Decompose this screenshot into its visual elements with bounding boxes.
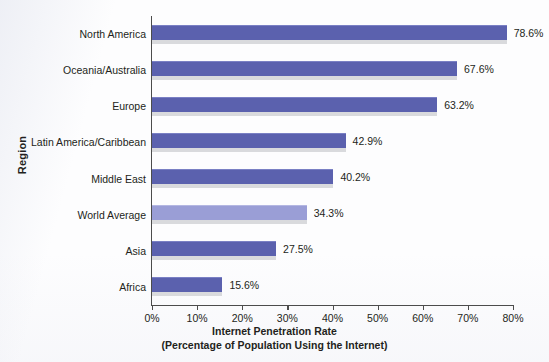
bar — [152, 277, 222, 297]
bar-value-label: 78.6% — [507, 27, 544, 39]
category-label: Middle East — [91, 173, 146, 185]
x-axis-tick-label: 80% — [502, 312, 523, 324]
bar-value-label: 40.2% — [333, 171, 370, 183]
bar-fill — [152, 169, 333, 185]
bar-row: North America78.6% — [152, 16, 513, 52]
bar-fill — [152, 25, 507, 41]
bar — [152, 133, 346, 153]
bar-row: Oceania/Australia67.6% — [152, 52, 513, 88]
category-label: Europe — [112, 100, 146, 112]
bar-row: Africa15.6% — [152, 269, 513, 305]
y-axis-title-label: Region — [16, 136, 28, 174]
x-axis-tick — [468, 305, 469, 310]
bar — [152, 61, 457, 81]
bar-shadow — [152, 40, 507, 44]
x-axis-tick-label: 30% — [277, 312, 298, 324]
x-axis-tick — [333, 305, 334, 310]
category-label: Africa — [119, 281, 146, 293]
x-axis-tick-label: 50% — [367, 312, 388, 324]
category-label: World Average — [78, 209, 147, 221]
bar-row: Latin America/Caribbean42.9% — [152, 124, 513, 160]
bar-shadow — [152, 220, 307, 224]
bar-shadow — [152, 292, 222, 296]
bar-row: Asia27.5% — [152, 233, 513, 269]
bar-shadow — [152, 184, 333, 188]
x-axis-tick — [287, 305, 288, 310]
bar-value-label: 42.9% — [346, 135, 383, 147]
x-axis-tick-label: 60% — [412, 312, 433, 324]
bar — [152, 97, 437, 117]
bar-value-label: 27.5% — [276, 243, 313, 255]
category-label: North America — [79, 28, 146, 40]
x-axis-tick — [378, 305, 379, 310]
x-axis-tick-label: 0% — [144, 312, 159, 324]
bar-row: Europe63.2% — [152, 88, 513, 124]
bar-fill — [152, 97, 437, 113]
category-label: Oceania/Australia — [63, 64, 146, 76]
category-label: Asia — [126, 245, 146, 257]
bar — [152, 169, 333, 189]
x-axis-title: Internet Penetration Rate (Percentage of… — [0, 324, 549, 352]
bar-shadow — [152, 256, 276, 260]
x-axis-tick — [152, 305, 153, 310]
x-axis-tick — [197, 305, 198, 310]
category-label: Latin America/Caribbean — [31, 136, 146, 148]
internet-penetration-bar-chart: Region North America78.6%Oceania/Austral… — [0, 0, 549, 362]
x-axis-title-main: Internet Penetration Rate — [0, 324, 549, 338]
x-axis-tick-label: 10% — [187, 312, 208, 324]
bar-fill — [152, 61, 457, 77]
bar-value-label: 34.3% — [307, 207, 344, 219]
bar — [152, 241, 276, 261]
bar-fill — [152, 205, 307, 221]
bar — [152, 205, 307, 225]
bar-shadow — [152, 112, 437, 116]
bar-row: Middle East40.2% — [152, 161, 513, 197]
bar-value-label: 63.2% — [437, 99, 474, 111]
x-axis-tick — [242, 305, 243, 310]
bar-value-label: 15.6% — [222, 279, 259, 291]
bar-row: World Average34.3% — [152, 197, 513, 233]
y-axis-title: Region — [14, 0, 30, 310]
bar-shadow — [152, 148, 346, 152]
bar-fill — [152, 241, 276, 257]
bar-fill — [152, 133, 346, 149]
x-axis-tick — [423, 305, 424, 310]
x-axis-title-sub: (Percentage of Population Using the Inte… — [0, 338, 549, 352]
bar-value-label: 67.6% — [457, 63, 494, 75]
plot-area: North America78.6%Oceania/Australia67.6%… — [152, 16, 513, 305]
x-axis-tick-label: 70% — [457, 312, 478, 324]
bar — [152, 25, 507, 45]
x-axis-tick-label: 20% — [232, 312, 253, 324]
x-axis-tick-label: 40% — [322, 312, 343, 324]
bar-shadow — [152, 76, 457, 80]
x-axis-tick — [513, 305, 514, 310]
bar-fill — [152, 277, 222, 293]
